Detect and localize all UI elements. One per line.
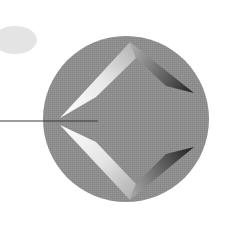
embossed-circle-diagram: [0, 0, 239, 225]
faint-ellipse: [0, 26, 37, 54]
